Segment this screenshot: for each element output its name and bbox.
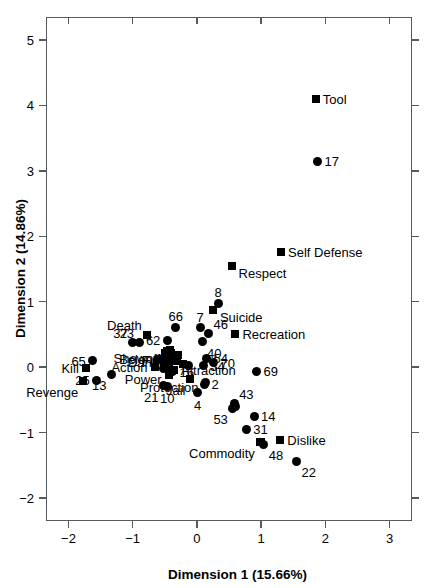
data-point-label: 10: [160, 392, 174, 405]
y-tick-right: [412, 432, 419, 433]
x-tick-top: [325, 17, 326, 24]
data-point-label: 23: [120, 326, 134, 339]
x-tick-top: [260, 17, 261, 24]
y-tick-right: [412, 301, 419, 302]
data-point-circle: [250, 412, 259, 421]
data-point-label: 17: [325, 155, 339, 168]
x-tick-label: −1: [125, 531, 140, 546]
y-tick-left: [39, 170, 46, 171]
data-point-label: 48: [269, 449, 283, 462]
data-point-label: 22: [301, 466, 315, 479]
x-tick-label: −2: [61, 531, 76, 546]
data-point-circle: [242, 425, 251, 434]
x-tick-top: [132, 17, 133, 24]
data-point-circle: [163, 336, 172, 345]
data-point-circle: [231, 402, 240, 411]
data-point-square: [228, 262, 236, 270]
data-point-circle: [196, 323, 205, 332]
y-axis-title: Dimension 2 (14.86%): [13, 158, 28, 378]
y-tick-right: [412, 105, 419, 106]
data-point-circle: [92, 376, 101, 385]
data-point-label: 62: [146, 334, 160, 347]
data-point-circle: [163, 382, 172, 391]
data-point-circle: [292, 457, 301, 466]
x-tick-top: [68, 17, 69, 24]
data-point-label: Dislike: [287, 434, 325, 447]
data-point-label: 25: [75, 374, 89, 387]
y-tick-left: [39, 105, 46, 106]
data-point-square: [231, 330, 239, 338]
x-tick-bottom: [325, 521, 326, 528]
data-point-square: [151, 363, 159, 371]
data-point-label: 65: [71, 354, 85, 367]
scatter-plot-figure: ToolSelf DefenseRespectSuicideRecreation…: [0, 0, 433, 588]
x-tick-bottom: [196, 521, 197, 528]
data-point-label: 43: [239, 387, 253, 400]
data-point-label: Recreation: [242, 328, 305, 341]
x-tick-bottom: [389, 521, 390, 528]
data-point-circle: [198, 337, 207, 346]
y-tick-right: [412, 497, 419, 498]
data-point-label: 7: [196, 310, 203, 323]
data-point-circle: [204, 329, 213, 338]
y-tick-left: [39, 432, 46, 433]
data-point-circle: [201, 378, 210, 387]
data-point-label: 14: [261, 410, 275, 423]
y-tick-left: [39, 236, 46, 237]
data-point-circle: [88, 356, 97, 365]
y-tick-right: [412, 366, 419, 367]
data-point-circle: [135, 338, 144, 347]
data-point-label: 69: [264, 365, 278, 378]
data-point-label: 2: [212, 378, 219, 391]
data-point-label: 21: [144, 390, 158, 403]
x-tick-top: [196, 17, 197, 24]
data-point-circle: [107, 370, 116, 379]
x-tick-top: [389, 17, 390, 24]
plot-area: ToolSelf DefenseRespectSuicideRecreation…: [0, 0, 433, 588]
data-point-label: 46: [213, 317, 227, 330]
y-tick-left: [39, 366, 46, 367]
data-point-square: [312, 95, 320, 103]
y-tick-left: [39, 301, 46, 302]
data-point-label: Revenge: [26, 385, 78, 398]
x-tick-label: 3: [386, 531, 393, 546]
data-point-label: 31: [253, 423, 267, 436]
data-point-square: [257, 438, 265, 446]
y-axis-title-wrap: Dimension 2 (14.86%): [2, 0, 22, 521]
data-point-label: 8: [214, 286, 221, 299]
x-tick-bottom: [68, 521, 69, 528]
data-point-label: 66: [168, 310, 182, 323]
x-tick-bottom: [260, 521, 261, 528]
data-point-circle: [214, 299, 223, 308]
y-tick-right: [412, 236, 419, 237]
data-point-circle: [184, 361, 193, 370]
y-tick-right: [412, 39, 419, 40]
data-point-label: Self Defense: [288, 245, 362, 258]
y-tick-right: [412, 170, 419, 171]
data-point-circle: [171, 323, 180, 332]
x-axis-title: Dimension 1 (15.66%): [0, 567, 433, 582]
y-tick-left: [39, 39, 46, 40]
data-point-circle: [252, 367, 261, 376]
data-point-circle: [153, 355, 162, 364]
data-point-label: 34: [210, 359, 224, 372]
data-point-square: [166, 366, 174, 374]
data-point-label: Respect: [239, 266, 287, 279]
data-point-label: Tool: [323, 92, 347, 105]
data-point-square: [276, 436, 284, 444]
data-point-square: [166, 346, 174, 354]
data-point-circle: [193, 388, 202, 397]
x-tick-label: 2: [322, 531, 329, 546]
data-point-label: 4: [194, 398, 201, 411]
data-point-label: 53: [213, 413, 227, 426]
data-point-circle: [313, 157, 322, 166]
x-tick-label: 1: [257, 531, 264, 546]
x-tick-bottom: [132, 521, 133, 528]
x-tick-label: 0: [193, 531, 200, 546]
data-point-label: Commodity: [189, 446, 255, 459]
data-point-square: [277, 248, 285, 256]
y-tick-left: [39, 497, 46, 498]
